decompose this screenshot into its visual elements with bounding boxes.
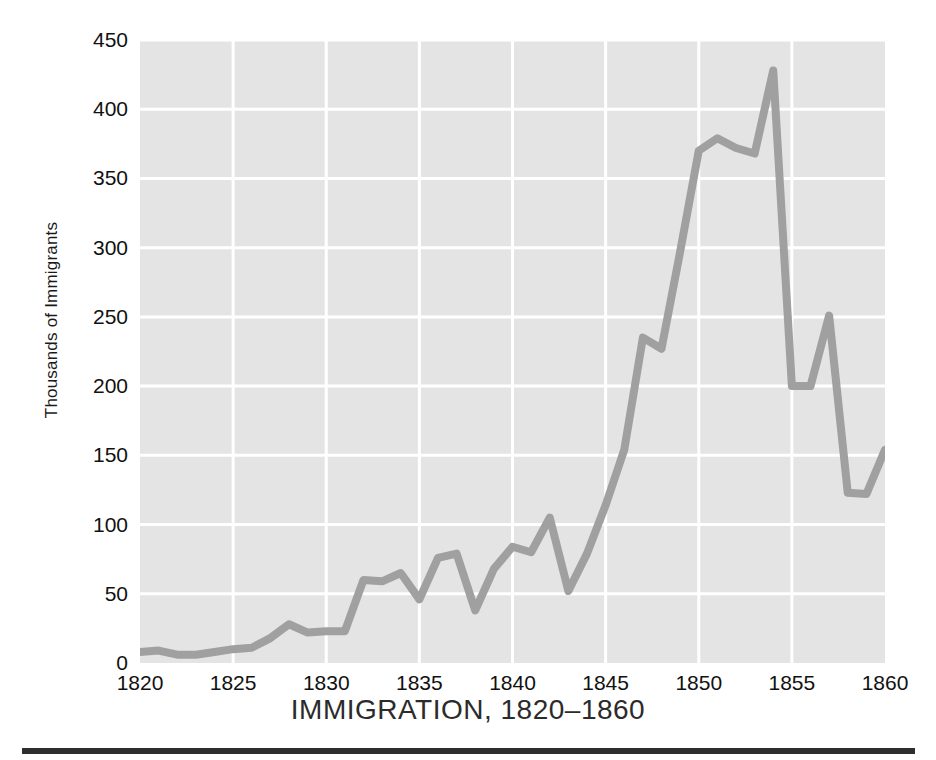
immigration-line-series bbox=[140, 40, 885, 663]
bottom-rule-divider bbox=[22, 748, 915, 754]
y-tick-label: 200 bbox=[8, 375, 128, 396]
y-tick-label: 50 bbox=[8, 583, 128, 604]
y-tick-label: 450 bbox=[8, 29, 128, 50]
y-tick-label: 0 bbox=[8, 652, 128, 673]
x-tick-label: 1860 bbox=[830, 672, 936, 693]
y-axis-title: Thousands of Immigrants bbox=[42, 190, 62, 450]
y-tick-label: 400 bbox=[8, 98, 128, 119]
immigration-chart-figure: 450400350300250200150100500 Thousands of… bbox=[0, 0, 936, 760]
y-tick-label: 350 bbox=[8, 167, 128, 188]
y-axis-tick-labels: 450400350300250200150100500 bbox=[0, 0, 128, 760]
y-tick-label: 250 bbox=[8, 306, 128, 327]
chart-title: IMMIGRATION, 1820–1860 bbox=[0, 694, 936, 726]
y-tick-label: 300 bbox=[8, 237, 128, 258]
y-tick-label: 150 bbox=[8, 444, 128, 465]
plot-area bbox=[140, 40, 885, 663]
y-tick-label: 100 bbox=[8, 514, 128, 535]
